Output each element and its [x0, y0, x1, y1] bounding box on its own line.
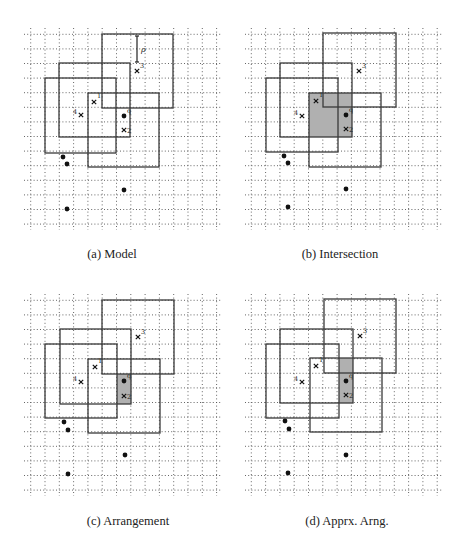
- cross-label: 3: [363, 327, 367, 335]
- data-point-dot: [65, 162, 70, 167]
- cross-label: 1: [97, 92, 101, 100]
- data-point-dot: [283, 419, 288, 424]
- cross-label: 1: [319, 356, 323, 364]
- data-point-dot: [286, 161, 291, 166]
- figure: q1234ρ(a) Model q1234(b) Intersection q1…: [0, 0, 468, 552]
- rho-bracket: ρ: [135, 36, 146, 62]
- cross-label: 3: [362, 62, 366, 70]
- cross-marker-4: 4: [294, 109, 304, 118]
- cross-marker-1: 1: [92, 92, 101, 104]
- query-point-label: q: [349, 372, 353, 380]
- data-point-dot: [286, 471, 291, 476]
- data-point-dot: [65, 207, 70, 212]
- panel-intersection: q1234(b) Intersection: [245, 28, 443, 261]
- query-point-label: q: [127, 107, 131, 115]
- data-point-dot: [66, 428, 71, 433]
- panel-caption: (b) Intersection: [302, 247, 379, 261]
- query-point-label: q: [349, 106, 353, 114]
- cross-label: 2: [349, 126, 353, 134]
- data-point-dot: [344, 453, 349, 458]
- data-point-dot: [344, 113, 349, 118]
- cross-marker-4: 4: [294, 375, 304, 384]
- cross-label: 3: [140, 62, 144, 70]
- data-point-dot: [287, 427, 292, 432]
- cross-marker-3: 3: [357, 62, 366, 73]
- cross-label: 2: [127, 127, 131, 135]
- data-point-dot: [61, 155, 66, 160]
- data-point-dot: [62, 420, 67, 425]
- panel-arrangement: q1234(c) Arrangement: [24, 294, 222, 528]
- cross-label: 2: [127, 393, 131, 401]
- data-point-dot: [122, 379, 127, 384]
- data-point-dot: [66, 472, 71, 477]
- square-upper-left: [59, 63, 130, 137]
- cross-label: 4: [73, 108, 77, 116]
- data-point-dot: [344, 379, 349, 384]
- data-point-dot: [286, 205, 291, 210]
- cross-label: 4: [73, 375, 77, 383]
- cross-marker-3: 3: [358, 327, 367, 338]
- panel-caption: (a) Model: [87, 247, 137, 261]
- panel-approx-arrangement: q1234(d) Apprx. Arng.: [245, 294, 443, 528]
- cross-label: 4: [294, 375, 298, 383]
- cross-label: 4: [294, 109, 298, 117]
- panel-model: q1234ρ(a) Model: [24, 28, 222, 261]
- cross-marker-4: 4: [73, 375, 83, 384]
- cross-marker-4: 4: [73, 108, 83, 117]
- data-point-dot: [344, 187, 349, 192]
- data-point-dot: [123, 453, 128, 458]
- query-point-label: q: [127, 372, 131, 380]
- cross-marker-3: 3: [136, 328, 145, 339]
- cross-label: 2: [349, 392, 353, 400]
- cross-label: 1: [319, 91, 323, 99]
- square-4: [45, 344, 117, 418]
- cross-label: 1: [98, 357, 102, 365]
- panel-caption: (c) Arrangement: [87, 514, 170, 528]
- rho-label: ρ: [140, 45, 146, 54]
- panel-caption: (d) Apprx. Arng.: [305, 514, 388, 528]
- data-point-dot: [282, 154, 287, 159]
- data-point-dot: [122, 188, 127, 193]
- data-point-dot: [122, 114, 127, 119]
- cross-marker-2: 2: [122, 127, 131, 135]
- cross-label: 3: [141, 328, 145, 336]
